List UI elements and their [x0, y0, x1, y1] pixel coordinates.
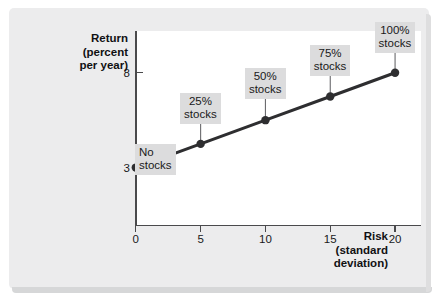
- callout-line: 100%: [379, 24, 412, 37]
- callout-line: stocks: [379, 37, 412, 50]
- data-series-svg: [0, 0, 438, 302]
- callout-line: 50%: [249, 70, 282, 83]
- callout-line: stocks: [249, 83, 282, 96]
- callout-50pct-stocks: 50%stocks: [245, 68, 286, 99]
- callout-75pct-stocks: 75%stocks: [310, 45, 351, 76]
- data-point-2: [261, 116, 269, 124]
- callout-line: stocks: [184, 108, 217, 121]
- callout-line: stocks: [139, 159, 172, 172]
- callout-line: stocks: [314, 60, 347, 73]
- callout-line: No: [139, 146, 172, 159]
- data-point-4: [391, 69, 399, 77]
- callout-line: 75%: [314, 47, 347, 60]
- callout-line: 25%: [184, 95, 217, 108]
- chart-figure: Return (percent per year) Risk (standard…: [0, 0, 438, 302]
- data-point-3: [326, 92, 334, 100]
- callout-100pct-stocks: 100%stocks: [375, 22, 416, 53]
- data-point-1: [196, 140, 204, 148]
- callout-25pct-stocks: 25%stocks: [180, 93, 221, 124]
- callout-no-stocks: Nostocks: [135, 144, 176, 175]
